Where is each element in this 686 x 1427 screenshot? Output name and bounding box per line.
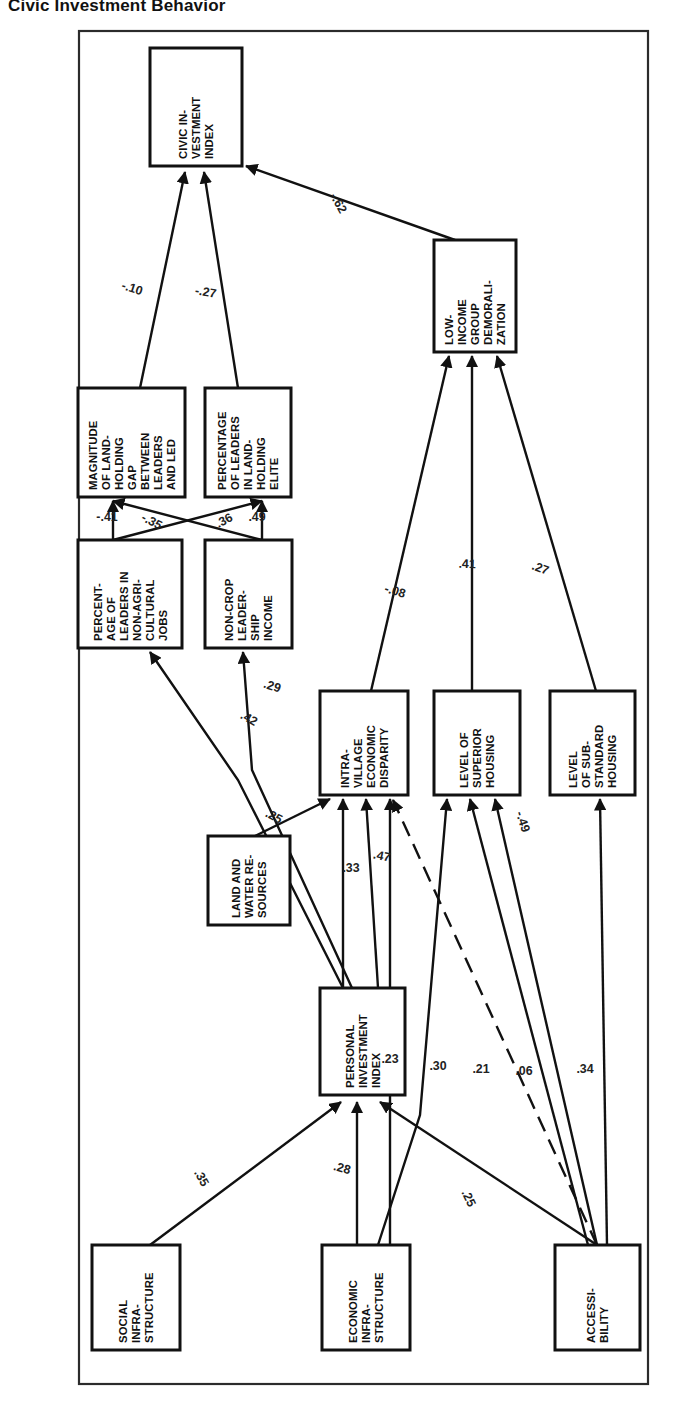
node-layer: CIVIC IN-VESTMENTINDEXLOW-INCOMEGROUPDEM… bbox=[78, 48, 640, 1350]
edge-coefficient-socialinfra-personal: .35 bbox=[191, 1167, 212, 1189]
path-diagram: CIVIC IN-VESTMENTINDEXLOW-INCOMEGROUPDEM… bbox=[0, 0, 686, 1427]
edge-accessibility-substandard bbox=[600, 799, 607, 1245]
edge-coefficient-disparity-lowincome: -.08 bbox=[383, 581, 408, 601]
edge-pctelite-civic bbox=[204, 172, 238, 388]
node-personal[interactable]: PERSONALINVESTMENTINDEX bbox=[320, 988, 405, 1095]
edge-coefficient-accessibility-disparity: .21 bbox=[472, 1062, 489, 1076]
node-substandard[interactable]: LEVELOF SUB-STANDARDHOUSING bbox=[550, 691, 635, 795]
node-socialinfra[interactable]: SOCIALINFRA-STRUCTURE bbox=[92, 1245, 180, 1350]
edge-coefficient-nonagri-magnitude: -.41 bbox=[96, 510, 117, 524]
edge-coefficient-magnitude-civic: -.10 bbox=[120, 278, 145, 298]
edge-coefficient-personal-nonagri: .42 bbox=[238, 708, 260, 729]
node-landwater[interactable]: LAND ANDWATER RE-SOURCES bbox=[208, 836, 290, 925]
node-accessibility[interactable]: ACCESSI-BILITY bbox=[555, 1245, 640, 1350]
node-disparity[interactable]: INTRA-VILLAGEECONOMICDISPARITY bbox=[320, 691, 408, 795]
edge-accessibility-superior bbox=[495, 799, 597, 1245]
node-pctelite[interactable]: PERCENTAGEOF LEADERSIN LAND-HOLDINGELITE bbox=[205, 388, 291, 497]
edge-coefficient-accessibility-personal: .25 bbox=[459, 1188, 479, 1210]
edge-accessibility-disparity bbox=[470, 799, 588, 1245]
edge-personal-disparity-2 bbox=[366, 799, 378, 988]
edge-coefficient-lowincome-civic: -.62 bbox=[327, 190, 350, 216]
edge-coefficient-noncrop-pctelite: .49 bbox=[248, 510, 265, 524]
edge-coefficient-econinfra-disparity: .23 bbox=[381, 1052, 398, 1066]
edge-coefficient-superior-lowincome: .41 bbox=[458, 557, 476, 572]
edge-magnitude-civic bbox=[140, 172, 185, 388]
edge-disparity-lowincome bbox=[371, 356, 449, 691]
edge-coefficient-personal-noncrop: .29 bbox=[262, 677, 283, 696]
edge-coefficient-substandard-lowincome: .27 bbox=[530, 559, 551, 578]
edge-socialinfra-personal bbox=[150, 1102, 341, 1245]
edge-coefficient-personal-disparity: .33 bbox=[342, 861, 359, 875]
edge-coefficient-personal-disparity2: .47 bbox=[372, 847, 392, 864]
edge-coefficient-econinfra-personal: .28 bbox=[332, 1159, 352, 1177]
edge-coefficient-accessibility-substandard: .34 bbox=[576, 1062, 593, 1076]
node-nonagri[interactable]: PERCENT-AGE OFLEADERS INNON-AGRI-CULTURA… bbox=[78, 540, 182, 648]
node-label-superior: LEVEL OFSUPERIORHOUSING bbox=[458, 728, 496, 788]
node-magnitude[interactable]: MAGNITUDEOF LAND-HOLDINGGAPBETWEENLEADER… bbox=[78, 388, 185, 497]
node-lowincome[interactable]: LOW-INCOMEGROUPDEMORALI-ZATION bbox=[434, 240, 516, 352]
node-label-landwater: LAND ANDWATER RE-SOURCES bbox=[230, 854, 268, 918]
edge-coefficient-accessibility-superior: -.49 bbox=[513, 809, 533, 834]
edge-coefficient-pctelite-civic: -.27 bbox=[194, 283, 218, 301]
edge-lowincome-civic bbox=[246, 166, 455, 240]
edge-coefficient-accessibility-superior: .06 bbox=[515, 1064, 532, 1078]
node-superior[interactable]: LEVEL OFSUPERIORHOUSING bbox=[434, 691, 520, 795]
node-civic[interactable]: CIVIC IN-VESTMENTINDEX bbox=[150, 48, 242, 166]
figure-stage: Civic Investment Behavior bbox=[0, 0, 686, 1427]
edge-coefficient-econinfra-superior: .30 bbox=[429, 1059, 446, 1073]
node-noncrop[interactable]: NON-CROPLEADER-SHIPINCOME bbox=[205, 540, 292, 648]
node-econinfra[interactable]: ECONOMICINFRA-STRUCTURE bbox=[322, 1245, 410, 1350]
edge-substandard-lowincome bbox=[497, 356, 596, 691]
